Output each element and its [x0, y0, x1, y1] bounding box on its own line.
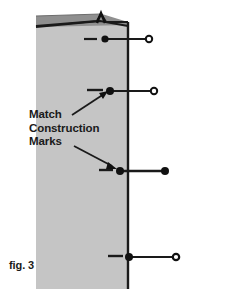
pin-3-head — [116, 167, 124, 175]
match-construction-marks-label: Match Construction Marks — [29, 108, 99, 149]
callout-line-3: Marks — [29, 135, 99, 149]
pin-3-tip — [161, 167, 169, 175]
figure-caption: fig. 3 — [9, 259, 34, 271]
callout-line-1: Match — [29, 108, 99, 122]
pin-2-tip — [151, 88, 157, 94]
pin-2-head — [106, 87, 114, 95]
fabric-panel-face — [36, 24, 128, 289]
pin-1-head — [101, 35, 108, 42]
callout-line-2: Construction — [29, 122, 99, 136]
pin-4-head — [125, 253, 133, 261]
pin-1-tip — [146, 36, 152, 42]
pin-4-tip — [173, 254, 179, 260]
figure-3-illustration: Match Construction Marks fig. 3 — [0, 0, 226, 289]
